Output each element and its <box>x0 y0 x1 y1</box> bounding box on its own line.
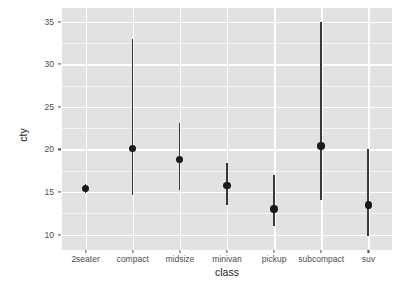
y-axis-tick-label: 15 <box>45 187 54 197</box>
y-axis-tick-label: 25 <box>45 102 54 112</box>
x-axis-tick-mark <box>85 250 86 253</box>
pointrange-minivan <box>220 8 234 250</box>
data-point <box>365 201 372 208</box>
y-axis-tick-label: 30 <box>45 59 54 69</box>
y-axis-tick-mark <box>58 234 61 235</box>
x-axis-tick-mark <box>179 250 180 253</box>
y-axis-tick-mark <box>58 149 61 150</box>
data-point <box>129 145 136 152</box>
x-axis-tick-label-minivan: minivan <box>212 254 241 264</box>
range-bar <box>132 39 134 196</box>
range-bar <box>367 149 369 236</box>
y-axis-tick-mark <box>58 21 61 22</box>
x-axis-tick-mark <box>132 250 133 253</box>
data-point <box>176 156 183 163</box>
x-axis-tick-mark <box>226 250 227 253</box>
data-point <box>82 185 89 192</box>
x-axis-tick-label-suv: suv <box>362 254 375 264</box>
pointrange-subcompact <box>314 8 328 250</box>
pointrange-compact <box>126 8 140 250</box>
y-axis-title: cty <box>17 105 29 165</box>
data-point <box>317 142 324 149</box>
y-axis-tick-mark <box>58 106 61 107</box>
pointrange-2seater <box>79 8 93 250</box>
y-axis-tick-mark <box>58 191 61 192</box>
x-axis-title: class <box>62 266 392 278</box>
data-point <box>270 205 277 212</box>
y-axis-tick-label: 10 <box>45 230 54 240</box>
chart-container: 101520253035 2seatercompactmidsizeminiva… <box>0 0 408 297</box>
x-axis-tick-label-2seater: 2seater <box>71 254 99 264</box>
x-axis-tick-label-midsize: midsize <box>165 254 194 264</box>
x-axis-tick-label-compact: compact <box>117 254 149 264</box>
y-axis-tick-label: 35 <box>45 17 54 27</box>
y-axis-tick-label: 20 <box>45 144 54 154</box>
x-axis-tick-mark <box>321 250 322 253</box>
range-bar <box>320 22 322 199</box>
data-point <box>223 182 230 189</box>
y-axis-tick-mark <box>58 64 61 65</box>
x-axis-tick-mark <box>368 250 369 253</box>
x-axis-tick-mark <box>274 250 275 253</box>
pointrange-midsize <box>173 8 187 250</box>
plot-panel <box>62 8 392 250</box>
pointrange-pickup <box>267 8 281 250</box>
pointrange-suv <box>361 8 375 250</box>
range-bar <box>273 175 275 226</box>
x-axis-tick-label-subcompact: subcompact <box>298 254 344 264</box>
x-axis-tick-label-pickup: pickup <box>262 254 287 264</box>
